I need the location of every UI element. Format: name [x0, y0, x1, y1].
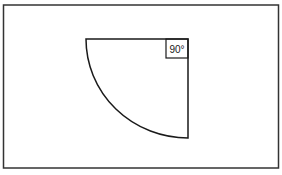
- angle-label: 90°: [169, 44, 184, 55]
- diagram-canvas: 90°: [0, 0, 282, 175]
- outer-frame: [4, 5, 279, 168]
